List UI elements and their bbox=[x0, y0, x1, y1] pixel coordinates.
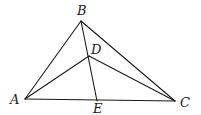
segment-ab bbox=[25, 21, 81, 99]
label-point-a: A bbox=[9, 92, 19, 107]
segment-ad bbox=[25, 56, 89, 99]
label-point-d: D bbox=[90, 42, 102, 57]
label-point-c: C bbox=[180, 95, 190, 110]
triangle-diagram: B D A E C bbox=[0, 0, 201, 115]
label-point-e: E bbox=[92, 101, 103, 115]
segment-dc bbox=[89, 56, 175, 101]
label-point-b: B bbox=[76, 3, 87, 18]
